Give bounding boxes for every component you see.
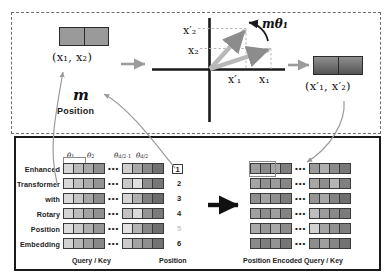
vector-cell	[94, 239, 104, 248]
query-key-block-left	[63, 178, 105, 189]
vector-cell	[84, 224, 94, 233]
vector-cell	[320, 239, 330, 248]
query-key-block-left	[63, 208, 105, 219]
query-key-block-right	[122, 238, 164, 249]
vector-cell	[143, 209, 153, 218]
vector-cell	[251, 239, 261, 248]
vector-cell	[271, 239, 281, 248]
position-number: 6	[172, 239, 186, 248]
vector-cell	[74, 179, 84, 188]
vector-cell	[133, 179, 143, 188]
vector-cell	[261, 194, 271, 203]
ellipsis: •••	[292, 163, 309, 174]
query-key-block-left	[63, 163, 105, 174]
vector-cell	[281, 209, 291, 218]
input-vector-label: (x₁, x₂)	[52, 50, 92, 64]
vector-cell	[310, 224, 320, 233]
vector-cell	[340, 179, 350, 188]
vector-cell	[133, 164, 143, 173]
vector-cell	[251, 224, 261, 233]
vector-cell	[261, 224, 271, 233]
vector-row: •••	[250, 238, 351, 249]
encoded-block-left	[250, 208, 292, 219]
rotation-angle-label: mθ₁	[262, 17, 288, 31]
vector-cell	[143, 179, 153, 188]
vector-cell	[281, 164, 291, 173]
position-number: 1	[172, 164, 183, 174]
vector-cell	[271, 179, 281, 188]
caption-position-encoded-query-key: Position Encoded Query / Key	[243, 257, 343, 264]
vector-cell	[123, 194, 133, 203]
axis-label-x2: x₂	[188, 44, 199, 57]
vector-cell	[340, 239, 350, 248]
query-key-block-left	[63, 238, 105, 249]
ellipsis: •••	[292, 193, 309, 204]
query-key-block-right	[122, 163, 164, 174]
vector-cell	[330, 209, 340, 218]
ellipsis: •••	[105, 208, 122, 219]
vector-cell	[94, 194, 104, 203]
vector-cell	[143, 224, 153, 233]
vector-cell	[94, 179, 104, 188]
vector-cell	[271, 209, 281, 218]
vector-cell	[330, 164, 340, 173]
axis-label-x1-prime: x′₁	[228, 73, 241, 86]
output-vector-label: (x′₁, x′₂)	[305, 79, 351, 93]
vector-cell	[64, 164, 74, 173]
vector-row: •••	[63, 223, 164, 234]
query-key-block-right	[122, 193, 164, 204]
vector-cell	[340, 209, 350, 218]
token-label: Rotary	[37, 210, 60, 219]
vector-cell	[74, 164, 84, 173]
token-label-column: EnhancedTransformerwithRotaryPositionEmb…	[12, 159, 60, 251]
position-variable-m: m	[73, 86, 89, 104]
encoded-block-right	[309, 208, 351, 219]
vector-cell	[340, 164, 350, 173]
ellipsis: •••	[105, 238, 122, 249]
vector-row: •••	[63, 163, 164, 174]
vector-cell	[74, 239, 84, 248]
vector-cell	[261, 209, 271, 218]
vector-row: •••	[63, 208, 164, 219]
position-caption: Position	[57, 106, 94, 116]
ellipsis: •••	[105, 223, 122, 234]
ellipsis: •••	[292, 178, 309, 189]
vector-cell	[64, 239, 74, 248]
vector-cell	[143, 194, 153, 203]
vector-cell	[133, 239, 143, 248]
vector-cell	[84, 194, 94, 203]
output-vector-cell-1	[314, 57, 338, 74]
vector-cell	[310, 239, 320, 248]
vector-cell	[251, 194, 261, 203]
vector-cell	[84, 239, 94, 248]
vector-row: •••	[250, 208, 351, 219]
axis-label-x2-prime: x′₂	[183, 24, 196, 37]
encoded-block-left	[250, 223, 292, 234]
output-vector-box	[313, 56, 363, 75]
token-label: with	[45, 195, 60, 204]
vector-cell	[123, 179, 133, 188]
vector-cell	[74, 209, 84, 218]
query-key-block-right	[122, 178, 164, 189]
vector-cell	[133, 209, 143, 218]
encoded-block-right	[309, 223, 351, 234]
query-key-block-left	[63, 193, 105, 204]
encoded-block-left	[250, 193, 292, 204]
vector-cell	[330, 194, 340, 203]
encoded-block-right	[309, 238, 351, 249]
query-key-block-right	[122, 208, 164, 219]
vector-row: •••	[63, 238, 164, 249]
ellipsis: •••	[292, 208, 309, 219]
ellipsis: •••	[105, 163, 122, 174]
token-label: Position	[31, 225, 60, 234]
vector-row: •••	[63, 193, 164, 204]
vector-cell	[64, 194, 74, 203]
position-number: 2	[172, 179, 186, 188]
vector-cell	[94, 209, 104, 218]
vector-cell	[310, 179, 320, 188]
vector-cell	[74, 224, 84, 233]
ellipsis: •••	[292, 223, 309, 234]
vector-cell	[310, 164, 320, 173]
vector-cell	[251, 179, 261, 188]
vector-row: •••	[63, 178, 164, 189]
